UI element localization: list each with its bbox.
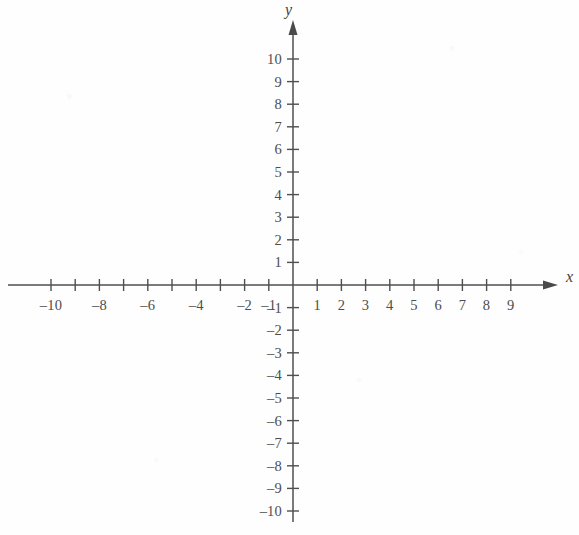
x-tick-label: 6	[434, 298, 441, 313]
coordinate-plane-figure: –10–8–6–4–2–1123456789 10987654321–1–2–3…	[0, 0, 579, 535]
y-tick-label: 5	[275, 165, 282, 180]
x-tick-label: 7	[459, 298, 466, 313]
y-axis-name-label: y	[285, 2, 292, 18]
x-tick-label: –6	[140, 298, 155, 313]
x-tick-label: –10	[40, 298, 62, 313]
y-tick-label: –6	[267, 413, 282, 428]
x-axis-name-label: x	[566, 269, 573, 285]
x-tick-label: –2	[237, 298, 252, 313]
y-tick-label: 7	[275, 120, 282, 135]
y-tick-label: –5	[267, 391, 282, 406]
x-tick-label: 9	[507, 298, 514, 313]
y-tick-label: 1	[275, 255, 282, 270]
y-tick-label: –8	[267, 459, 282, 474]
y-tick-label: –4	[267, 368, 282, 383]
y-tick-label: –3	[267, 346, 282, 361]
x-tick-label: –4	[189, 298, 204, 313]
y-tick-label: –9	[267, 481, 282, 496]
y-tick-label: –1	[267, 300, 282, 315]
y-tick-label: 4	[275, 187, 282, 202]
x-tick-label: 2	[338, 298, 345, 313]
x-tick-label: –8	[92, 298, 107, 313]
y-tick-label: 6	[275, 142, 282, 157]
y-tick-label: –7	[267, 436, 282, 451]
x-tick-label: 4	[386, 298, 393, 313]
y-tick-label: 10	[267, 52, 282, 67]
y-axis-arrowhead	[289, 20, 298, 35]
y-tick-label: –10	[260, 504, 282, 519]
y-tick-label: 9	[275, 74, 282, 89]
axis-arrowheads	[289, 20, 559, 290]
x-tick-label: 8	[483, 298, 490, 313]
x-tick-label: 1	[313, 298, 320, 313]
x-tick-label: 3	[362, 298, 369, 313]
y-tick-label: 8	[275, 97, 282, 112]
x-tick-label: 5	[410, 298, 417, 313]
y-tick-label: 3	[275, 210, 282, 225]
x-axis-arrowhead	[543, 281, 558, 290]
axes-svg	[0, 0, 579, 535]
y-tick-label: 2	[275, 233, 282, 248]
y-tick-label: –2	[267, 323, 282, 338]
